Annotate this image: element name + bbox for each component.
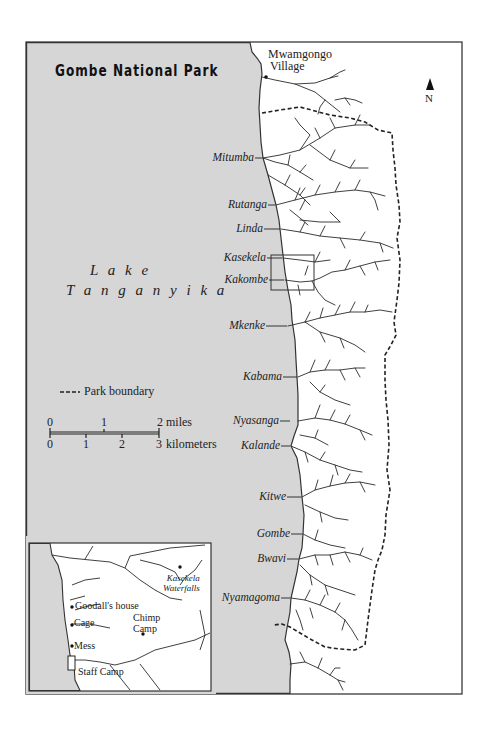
scale-mile-2: 2: [157, 415, 163, 430]
inset-staff-label: Staff Camp: [78, 666, 124, 677]
place-bwavi: Bwavi: [257, 552, 286, 564]
scale-km-2: 2: [119, 437, 125, 452]
place-mkenke: Mkenke: [229, 319, 265, 331]
inset-mess-label: Mess: [74, 640, 95, 651]
village-label-line2: Village: [268, 60, 332, 72]
place-rutanga: Rutanga: [228, 198, 267, 210]
scale-mile-0: 0: [47, 415, 53, 430]
inset-cage-label: Cage: [74, 617, 95, 628]
north-label: N: [425, 92, 433, 104]
map-title: Gombe National Park: [55, 62, 218, 80]
place-gombe: Gombe: [257, 527, 290, 539]
scale-km-unit: kilometers: [166, 437, 217, 452]
staff-camp-marker: [68, 656, 75, 670]
place-kabama: Kabama: [243, 370, 282, 382]
place-linda: Linda: [236, 222, 263, 234]
scale-km-0: 0: [47, 437, 53, 452]
inset-falls-line1: Kasekela: [163, 573, 200, 583]
scale-miles-unit: miles: [166, 415, 192, 430]
scale-km-3: 3: [156, 437, 162, 452]
place-nyamagoma: Nyamagoma: [222, 591, 280, 603]
place-kitwe: Kitwe: [259, 490, 286, 502]
inset-chimp-camp-label: Chimp Camp: [133, 612, 160, 634]
inset-chimp-line1: Chimp: [133, 612, 160, 623]
inset-waterfalls-label: Kasekela Waterfalls: [163, 573, 200, 593]
place-kalande: Kalande: [241, 439, 280, 451]
village-dot: [264, 75, 268, 79]
place-nyasanga: Nyasanga: [233, 414, 279, 426]
scale-km-1: 1: [83, 437, 89, 452]
scale-mile-1: 1: [101, 415, 107, 430]
village-label: Mwamgongo Village: [268, 48, 332, 72]
place-mitumba: Mitumba: [212, 151, 254, 163]
inset-chimp-line2: Camp: [133, 623, 160, 634]
place-kasekela: Kasekela: [224, 251, 266, 263]
place-kakombe: Kakombe: [225, 273, 268, 285]
inset-falls-line2: Waterfalls: [163, 583, 200, 593]
inset-goodall-label: Goodall's house: [75, 600, 139, 611]
lake-label-line2: T a n g a n y i k a: [66, 282, 227, 299]
lake-label-line1: L a k e: [90, 262, 151, 279]
legend-boundary-label: Park boundary: [84, 384, 154, 399]
